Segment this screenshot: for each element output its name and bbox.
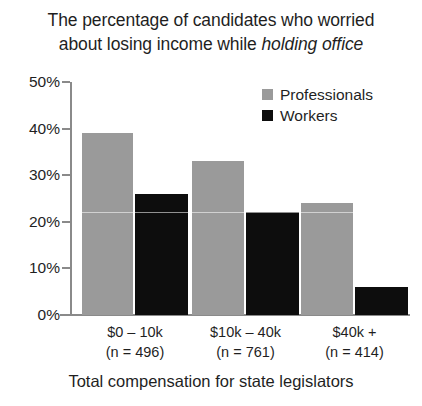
- chart-title: The percentage of candidates who worried…: [0, 8, 422, 56]
- x-axis-title: Total compensation for state legislators: [0, 370, 422, 392]
- y-axis-tick-mark: [62, 128, 70, 130]
- y-axis-tick-label: 30%: [12, 167, 60, 183]
- bar-workers-3: [355, 287, 408, 315]
- category-name: $0 – 10k: [107, 324, 163, 340]
- y-axis-tick-label: 20%: [12, 214, 60, 230]
- legend-label: Workers: [280, 108, 337, 124]
- legend-label: Professionals: [280, 87, 373, 103]
- bar-professionals-1: [82, 133, 133, 315]
- y-axis-tick-mark: [62, 221, 70, 223]
- legend-item-professionals: Professionals: [262, 84, 373, 105]
- y-axis-tick-mark: [62, 81, 70, 83]
- bar-workers-1: [135, 194, 188, 315]
- bar-professionals-2: [192, 161, 244, 315]
- legend-item-workers: Workers: [262, 105, 373, 126]
- x-axis-category-label: $40k +(n = 414): [285, 322, 422, 362]
- y-axis-tick-label: 40%: [12, 121, 60, 137]
- bar-workers-2: [246, 212, 299, 315]
- y-axis-tick-label: 10%: [12, 260, 60, 276]
- chart-title-line-1: The percentage of candidates who worried: [48, 10, 375, 30]
- chart-title-line-2-plain: about losing income while: [59, 34, 262, 54]
- legend-swatch-icon: [262, 110, 273, 121]
- y-axis-tick-mark: [62, 174, 70, 176]
- category-name: $10k – 40k: [210, 324, 281, 340]
- y-axis-tick-label: 50%: [12, 74, 60, 90]
- y-axis-tick-label: 0%: [12, 307, 60, 323]
- legend-swatch-icon: [262, 89, 273, 100]
- chart-legend: ProfessionalsWorkers: [262, 84, 373, 126]
- y-axis-tick-labels: 50%40%30%20%10%0%: [8, 0, 60, 406]
- category-sample-size: (n = 414): [285, 342, 422, 362]
- bar-professionals-3: [301, 203, 353, 315]
- chart-title-line-2-italic: holding office: [261, 34, 363, 54]
- category-name: $40k +: [333, 324, 377, 340]
- y-axis-tick-mark: [62, 267, 70, 269]
